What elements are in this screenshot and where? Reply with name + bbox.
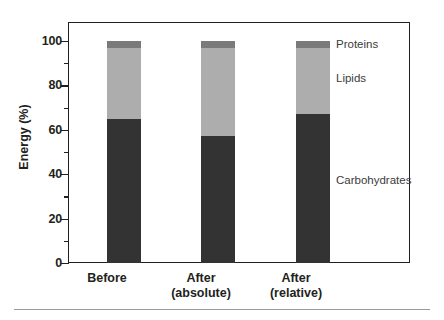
footer-rule	[14, 309, 430, 310]
bar-segment-proteins	[107, 41, 141, 48]
bar-segment-lipids	[296, 48, 330, 115]
y-tick-0	[61, 263, 69, 264]
bar-segment-proteins	[296, 41, 330, 48]
y-tick-label-60: 60	[48, 124, 62, 137]
plot-area: Proteins Lipids Carbohydrates	[68, 41, 410, 263]
y-tick-label-40: 40	[48, 168, 62, 181]
bar-segment-carbohydrates	[107, 119, 141, 263]
x-tick-label-after-relative: After (relative)	[231, 271, 361, 301]
series-label-proteins: Proteins	[336, 39, 378, 51]
bar-segment-carbohydrates	[201, 136, 235, 263]
bar-segment-lipids	[201, 48, 235, 137]
bar-after-relative[interactable]	[296, 41, 330, 263]
stacked-bar-chart-figure: 100 80 60 40 20 0 Energy (%) Proteins Li…	[0, 0, 444, 320]
y-tick-label-100: 100	[42, 35, 62, 48]
x-tick-label-line1: After	[231, 271, 361, 286]
y-axis-title: Energy (%)	[17, 57, 31, 217]
series-label-lipids: Lipids	[336, 73, 366, 85]
bar-segment-lipids	[107, 48, 141, 119]
bar-segment-proteins	[201, 41, 235, 48]
y-tick-label-0: 0	[55, 257, 62, 270]
y-tick-label-20: 20	[48, 213, 62, 226]
x-tick-label-line2: (relative)	[231, 286, 361, 301]
bar-before[interactable]	[107, 41, 141, 263]
y-tick-label-80: 80	[48, 79, 62, 92]
bar-after-absolute[interactable]	[201, 41, 235, 263]
bar-segment-carbohydrates	[296, 114, 330, 263]
series-label-carbohydrates: Carbohydrates	[336, 175, 411, 187]
